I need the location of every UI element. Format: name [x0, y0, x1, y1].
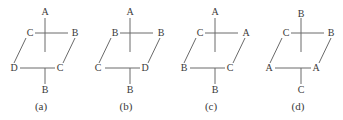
- node-upper-right: B: [328, 28, 335, 38]
- node-lower-left: D: [10, 63, 17, 73]
- node-bottom: C: [298, 85, 305, 95]
- panel-a: A C B D C B (a): [0, 0, 86, 120]
- node-lower-left: B: [181, 63, 188, 73]
- node-lower-right: C: [57, 63, 64, 73]
- node-bottom: B: [42, 85, 49, 95]
- node-top: A: [126, 7, 133, 17]
- panel-caption: (a): [35, 101, 47, 112]
- node-upper-right: B: [72, 28, 79, 38]
- panel-b: A B B C D B (b): [85, 0, 171, 120]
- panel-caption: (d): [292, 101, 305, 112]
- node-upper-left: C: [283, 28, 290, 38]
- node-lower-right: D: [141, 63, 148, 73]
- node-top: A: [211, 7, 218, 17]
- node-upper-right: B: [158, 28, 165, 38]
- node-upper-left: B: [112, 28, 119, 38]
- node-top: B: [298, 9, 305, 19]
- node-lower-right: C: [227, 63, 234, 73]
- node-bottom: B: [212, 85, 219, 95]
- node-lower-left: A: [265, 63, 272, 73]
- node-bottom: B: [127, 85, 134, 95]
- panel-caption: (c): [205, 101, 217, 112]
- node-upper-left: C: [27, 28, 34, 38]
- node-upper-left: C: [197, 28, 204, 38]
- node-upper-right: A: [242, 28, 249, 38]
- node-lower-left: C: [95, 63, 102, 73]
- node-lower-right: A: [312, 63, 319, 73]
- panel-d: B C B A A C (d): [253, 0, 339, 120]
- panel-caption: (b): [120, 101, 133, 112]
- node-top: A: [41, 7, 48, 17]
- panel-c: A C A B C B (c): [170, 0, 256, 120]
